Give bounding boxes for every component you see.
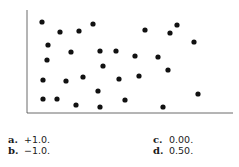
choice-value: 0.50. bbox=[169, 145, 193, 156]
choice-b[interactable]: b.−1.0. bbox=[8, 145, 50, 156]
choice-value: 0.00. bbox=[169, 134, 193, 145]
choice-letter: d. bbox=[153, 145, 169, 156]
answer-choices: a.+1.0. b.−1.0. c.0.00. d.0.50. bbox=[0, 0, 239, 167]
choice-value: −1.0. bbox=[24, 145, 50, 156]
choice-c[interactable]: c.0.00. bbox=[153, 134, 193, 145]
choice-letter: b. bbox=[8, 145, 24, 156]
choice-d[interactable]: d.0.50. bbox=[153, 145, 193, 156]
choice-value: +1.0. bbox=[24, 134, 50, 145]
choice-letter: c. bbox=[153, 134, 169, 145]
choice-a[interactable]: a.+1.0. bbox=[8, 134, 50, 145]
choice-letter: a. bbox=[8, 134, 24, 145]
